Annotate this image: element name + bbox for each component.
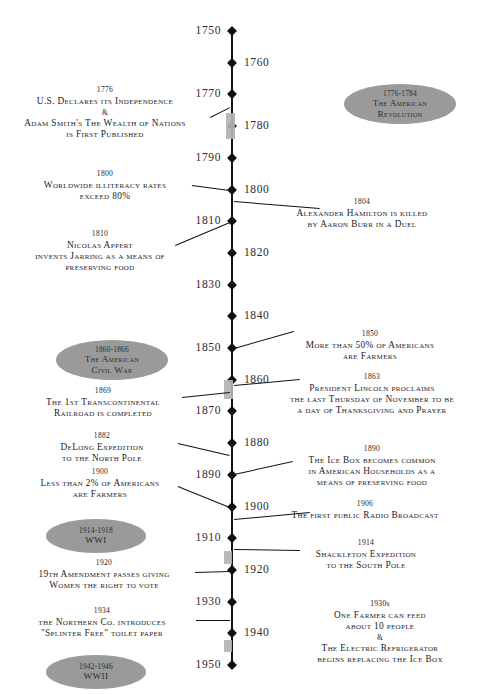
timeline-tick-1820: [227, 248, 237, 258]
event-1776-line-1: &: [24, 107, 186, 118]
timeline-tick-1760: [227, 58, 237, 68]
timeline-tick-1890: [227, 470, 237, 480]
event-1930s-text: 1930sOne Farmer can feedabout 10 people&…: [317, 598, 443, 665]
era-bar-wwi: [224, 551, 232, 564]
timeline-tick-1940: [227, 628, 237, 638]
year-label-1880: 1880: [244, 436, 269, 448]
timeline-tick-1950: [227, 660, 237, 670]
event-1863-line-0: President Lincoln proclaims: [290, 383, 454, 394]
timeline-infographic: 1750176017701780179018001810182018301840…: [0, 0, 481, 695]
year-label-1890: 1890: [196, 468, 221, 480]
year-label-1920: 1920: [244, 563, 269, 575]
year-label-1830: 1830: [196, 278, 221, 290]
year-label-1760: 1760: [244, 56, 269, 68]
event-1810-line-0: Nicolas Appert: [35, 240, 165, 251]
timeline-tick-1770: [227, 89, 237, 99]
year-label-1900: 1900: [244, 500, 269, 512]
year-label-1850: 1850: [196, 341, 221, 353]
event-1776-text: 1776U.S. Declares its Independence&Adam …: [24, 84, 186, 140]
event-1869-leader-line: [182, 392, 230, 398]
year-label-1810: 1810: [196, 214, 221, 226]
event-1900-text: 1900Less than 2% of Americansare Farmers: [41, 466, 160, 500]
event-1890-line-1: in American Households as a: [308, 466, 435, 477]
event-1900-line-0: Less than 2% of Americans: [41, 478, 160, 489]
event-1914-year: 1914: [316, 537, 417, 548]
event-1863-line-2: a day of Thanksgiving and Prayer: [290, 405, 454, 416]
era-american-civil-war-name-1: Civil War: [92, 365, 133, 376]
era-american-revolution-years: 1776-1784: [383, 89, 417, 98]
event-1920-year: 1920: [38, 557, 169, 568]
era-wwi-years: 1914-1918: [79, 526, 113, 535]
event-1869-text: 1869The 1st TranscontinentalRailroad is …: [46, 385, 160, 419]
event-1804-line-0: Alexander Hamilton is killed: [297, 208, 428, 219]
event-1800-text: 1800Worldwide illiteracy ratesexceed 80%: [44, 168, 166, 202]
era-wwi-name-0: WWI: [85, 535, 107, 546]
event-1850-line-0: More than 50% of Americans: [306, 340, 434, 351]
event-1863-text: 1863President Lincoln proclaimsthe last …: [290, 371, 454, 416]
event-1890-line-2: means of preserving food: [308, 477, 435, 488]
event-1930s-year: 1930s: [317, 598, 443, 609]
event-1930s-line-1: about 10 people: [317, 621, 443, 632]
year-label-1940: 1940: [244, 626, 269, 638]
event-1882-leader-line: [178, 443, 230, 456]
event-1882-year: 1882: [60, 430, 143, 441]
event-1914-leader-line: [234, 549, 300, 551]
event-1914-line-1: to the South Pole: [316, 560, 417, 571]
event-1810-text: 1810Nicolas Appertinvents Jarring as a m…: [35, 228, 165, 273]
event-1800-leader-line: [192, 185, 230, 191]
event-1863-year: 1863: [290, 371, 454, 382]
timeline-tick-1930: [227, 597, 237, 607]
event-1930s-line-3: The Electric Refrigerator: [317, 643, 443, 654]
event-1930s-line-0: One Farmer can feed: [317, 610, 443, 621]
timeline-tick-1920: [227, 565, 237, 575]
event-1800-line-1: exceed 80%: [44, 191, 166, 202]
era-bar-american-revolution: [226, 113, 235, 138]
timeline-tick-1880: [227, 438, 237, 448]
year-label-1800: 1800: [244, 183, 269, 195]
event-1810-line-1: invents Jarring as a means of: [35, 251, 165, 262]
event-1850-line-1: are Farmers: [306, 351, 434, 362]
event-1869-line-0: The 1st Transcontinental: [46, 397, 160, 408]
timeline-tick-1910: [227, 533, 237, 543]
timeline-tick-1810: [227, 216, 237, 226]
event-1890-leader-line: [234, 461, 293, 475]
year-label-1770: 1770: [196, 87, 221, 99]
event-1934-line-0: the Northern Co. introduces: [38, 617, 165, 628]
event-1850-leader-line: [234, 331, 294, 349]
event-1804-text: 1804Alexander Hamilton is killedby Aaron…: [297, 196, 428, 230]
era-american-revolution-name-0: The American: [373, 98, 428, 109]
era-american-civil-war-years: 1860-1866: [95, 345, 129, 354]
event-1900-line-1: are Farmers: [41, 489, 160, 500]
event-1882-line-1: to the North Pole: [60, 453, 143, 464]
event-1920-line-0: 19th Amendment passes giving: [38, 569, 169, 580]
year-label-1750: 1750: [196, 24, 221, 36]
event-1850-text: 1850More than 50% of Americansare Farmer…: [306, 328, 434, 362]
event-1934-leader-line: [196, 620, 230, 621]
year-label-1780: 1780: [244, 119, 269, 131]
event-1906-line-0: The first public Radio Broadcast: [291, 510, 438, 521]
event-1800-year: 1800: [44, 168, 166, 179]
event-1906-text: 1906The first public Radio Broadcast: [291, 498, 438, 521]
event-1934-text: 1934the Northern Co. introduces"Splinter…: [38, 605, 165, 639]
event-1934-year: 1934: [38, 605, 165, 616]
event-1890-year: 1890: [308, 443, 435, 454]
event-1882-line-0: DeLong Expedition: [60, 442, 143, 453]
event-1890-text: 1890The Ice Box becomes commonin America…: [308, 443, 435, 488]
event-1906-year: 1906: [291, 498, 438, 509]
event-1776-year: 1776: [24, 84, 186, 95]
event-1900-year: 1900: [41, 466, 160, 477]
event-1863-line-1: the last Thursday of November to be: [290, 394, 454, 405]
event-1890-line-0: The Ice Box becomes common: [308, 455, 435, 466]
timeline-tick-1830: [227, 280, 237, 290]
event-1776-line-0: U.S. Declares its Independence: [24, 96, 186, 107]
event-1914-text: 1914Shackleton Expeditionto the South Po…: [316, 537, 417, 571]
timeline-tick-1840: [227, 311, 237, 321]
event-1810-line-2: preserving food: [35, 262, 165, 273]
timeline-tick-1790: [227, 153, 237, 163]
era-bar-american-civil-war: [224, 380, 233, 399]
era-american-civil-war-name-0: The American: [85, 354, 140, 365]
event-1930s-line-2: &: [317, 632, 443, 643]
year-label-1870: 1870: [196, 404, 221, 416]
event-1930s-line-4: begins replacing the Ice Box: [317, 654, 443, 665]
era-american-revolution-name-1: Revolution: [378, 109, 423, 120]
